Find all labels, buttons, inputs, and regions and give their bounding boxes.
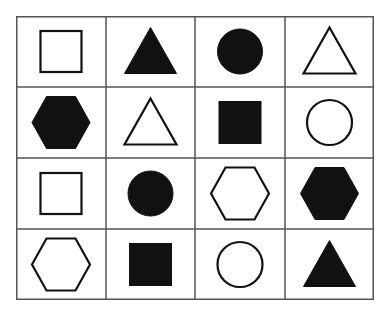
grid-cell [106,16,195,87]
filled-square-icon [219,102,261,144]
grid-cell [16,87,106,158]
grid-cell [285,158,374,229]
grid-cell [16,16,106,87]
filled-circle-icon [218,29,263,74]
grid-cell [195,229,285,300]
grid-cell [106,158,195,229]
shape-grid [16,16,374,300]
grid-cell [195,16,285,87]
grid-cell [285,87,374,158]
grid-cell [106,229,195,300]
shape-grid-canvas [16,16,374,300]
grid-cell [285,229,374,300]
filled-circle-icon [128,171,173,216]
grid-cell [106,87,195,158]
grid-cell [285,16,374,87]
grid-cell [195,87,285,158]
grid-cell [16,229,106,300]
grid-cell [16,158,106,229]
filled-square-icon [130,244,172,286]
grid-cell [195,158,285,229]
